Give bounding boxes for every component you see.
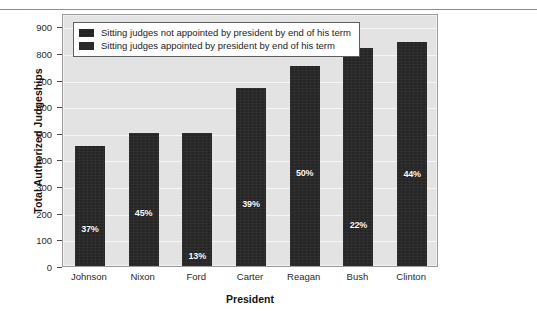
bar-reagan: 50% xyxy=(290,66,320,266)
bar-percent-label: 37% xyxy=(75,224,105,234)
bar-ford: 13% xyxy=(182,133,212,266)
y-tick-mark xyxy=(57,81,62,82)
y-axis-title: Total Authorized Judgeships xyxy=(32,46,44,236)
x-axis-title: President xyxy=(226,293,274,305)
legend-label-appointed: Sitting judges appointed by president by… xyxy=(101,40,335,51)
plot-area: 37%45%13%39%50%22%44% Sitting judges not… xyxy=(62,14,438,267)
y-tick-mark xyxy=(57,267,62,268)
y-tick-mark xyxy=(57,27,62,28)
top-divider-rule xyxy=(0,9,537,10)
bar-percent-label: 44% xyxy=(397,169,427,179)
bar-bush: 22% xyxy=(343,48,373,266)
y-tick-label: 900 xyxy=(18,22,52,33)
bar-carter: 39% xyxy=(236,88,266,266)
legend-swatch-icon-appointed xyxy=(79,42,94,50)
y-tick-label: 100 xyxy=(18,235,52,246)
x-tick-label-clinton: Clinton xyxy=(371,271,451,282)
chart-figure: 37%45%13%39%50%22%44% Sitting judges not… xyxy=(0,0,537,312)
bar-percent-label: 50% xyxy=(290,168,320,178)
y-tick-mark xyxy=(57,107,62,108)
bar-percent-label: 39% xyxy=(236,199,266,209)
y-tick-mark xyxy=(57,214,62,215)
y-tick-label: 0 xyxy=(18,262,52,273)
bar-johnson: 37% xyxy=(75,146,105,266)
bar-clinton: 44% xyxy=(397,42,427,266)
legend-entry-appointed: Sitting judges appointed by president by… xyxy=(79,39,351,52)
legend-entry-not-appointed: Sitting judges not appointed by presiden… xyxy=(79,26,351,39)
y-tick-mark xyxy=(57,134,62,135)
legend-swatch-icon-not-appointed xyxy=(79,29,94,37)
gridline xyxy=(63,82,437,83)
bar-percent-label: 13% xyxy=(182,251,212,261)
y-tick-mark xyxy=(57,160,62,161)
bar-percent-label: 22% xyxy=(343,220,373,230)
bar-nixon: 45% xyxy=(129,133,159,266)
y-tick-mark xyxy=(57,240,62,241)
bar-percent-label: 45% xyxy=(129,208,159,218)
x-axis-title-wrap: President xyxy=(62,289,438,307)
y-tick-mark xyxy=(57,187,62,188)
y-tick-mark xyxy=(57,54,62,55)
chart-legend: Sitting judges not appointed by presiden… xyxy=(73,22,360,57)
legend-label-not-appointed: Sitting judges not appointed by presiden… xyxy=(101,27,351,38)
